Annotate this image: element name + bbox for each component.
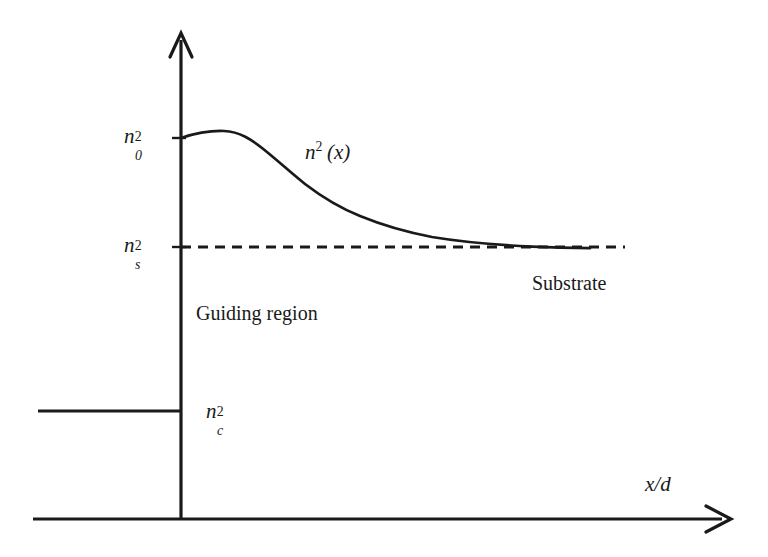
index-profile-curve [181,131,590,248]
figure-container: n20 n2s n2c n2(x) Substrate Guiding regi… [0,0,768,557]
label-n0-squared: n20 [124,126,150,147]
label-ns-base: n [124,233,135,257]
label-nc-subscript: c [217,424,223,438]
label-guiding-region: Guiding region [196,302,318,325]
label-curve-superscript: 2 [316,139,323,154]
label-substrate-region: Substrate [532,272,606,295]
label-index-profile-function: n2(x) [305,142,350,163]
label-nc-base: n [206,399,217,423]
label-x-axis: x/d [645,472,671,497]
label-ns-subscript: s [135,258,140,272]
label-nc-squared: n2c [206,401,232,422]
label-n0-base: n [124,124,135,148]
label-ns-squared: n2s [124,235,150,256]
label-nc-superscript: 2 [217,405,224,419]
label-n0-superscript: 2 [135,130,142,144]
label-curve-argument: (x) [327,140,350,164]
label-curve-base: n [305,140,316,164]
label-n0-subscript: 0 [135,149,142,163]
label-ns-superscript: 2 [135,239,142,253]
